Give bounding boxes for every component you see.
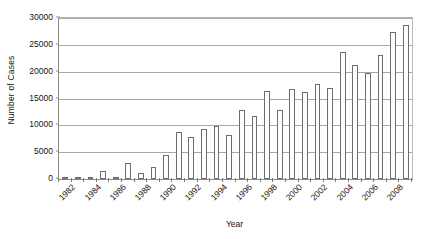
bar <box>176 132 182 179</box>
x-tick-label: 2002 <box>309 182 329 202</box>
x-tick-label: 1984 <box>82 182 102 202</box>
bar <box>188 137 194 179</box>
x-tick-label: 1992 <box>183 182 203 202</box>
x-tick-label: 2004 <box>334 182 354 202</box>
x-tick-label: 2000 <box>284 182 304 202</box>
bar <box>289 89 295 179</box>
y-tick-label: 0 <box>48 173 53 183</box>
bar <box>378 55 384 180</box>
bar <box>226 135 232 179</box>
bar <box>403 25 409 179</box>
plot-area <box>58 17 413 180</box>
x-tick-label: 1988 <box>133 182 153 202</box>
bar <box>390 32 396 179</box>
x-tick-label: 1998 <box>259 182 279 202</box>
bar-series <box>59 18 412 179</box>
x-tick-label: 1986 <box>107 182 127 202</box>
x-axis-title: Year <box>58 219 411 229</box>
bar-chart-figure: Number of Cases 050001000015000200002500… <box>0 0 422 239</box>
bar <box>163 155 169 179</box>
bar <box>327 88 333 179</box>
bar <box>277 110 283 179</box>
x-tick-label: 2006 <box>359 182 379 202</box>
y-tick-label: 25000 <box>29 39 53 49</box>
bar <box>239 110 245 179</box>
bar <box>264 91 270 179</box>
bar <box>201 129 207 179</box>
bar <box>340 52 346 179</box>
y-tick-label: 30000 <box>29 12 53 22</box>
y-axis-title-text: Number of Cases <box>6 55 16 124</box>
y-tick-label: 10000 <box>29 119 53 129</box>
x-tick-label: 1996 <box>233 182 253 202</box>
bar <box>315 84 321 179</box>
y-tick-label: 5000 <box>34 146 53 156</box>
x-tick-label: 1994 <box>208 182 228 202</box>
bar <box>252 116 258 179</box>
x-axis-tick-labels: 1982198419861988199019921994199619982000… <box>58 182 413 216</box>
x-tick-label: 1990 <box>158 182 178 202</box>
x-tick-label: 1982 <box>57 182 77 202</box>
x-tick-label: 2008 <box>385 182 405 202</box>
bar <box>214 126 220 179</box>
bar <box>302 92 308 179</box>
y-axis-tick-labels: 050001000015000200002500030000 <box>18 0 56 186</box>
y-tick-label: 15000 <box>29 93 53 103</box>
bar <box>365 73 371 179</box>
bar <box>125 163 131 179</box>
bar <box>352 65 358 179</box>
y-tick-label: 20000 <box>29 66 53 76</box>
